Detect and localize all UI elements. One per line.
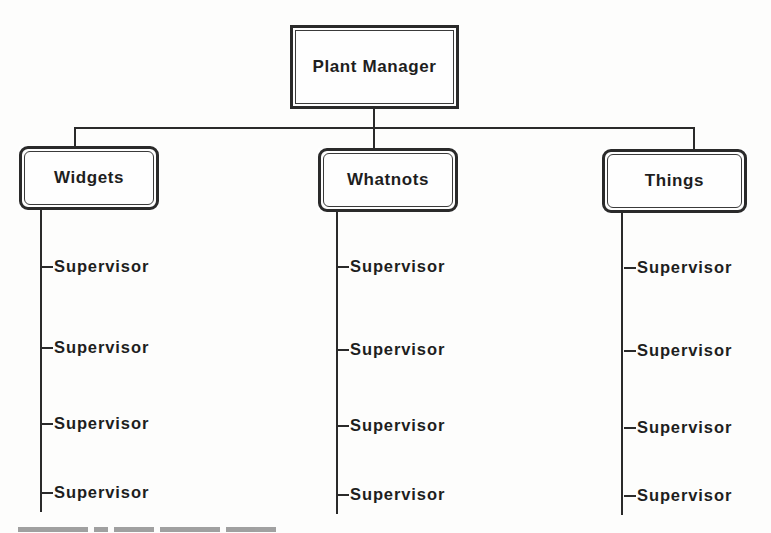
- branch-tick: [624, 495, 636, 497]
- supervisor-item: Supervisor: [337, 416, 445, 434]
- department-box-whatnots: Whatnots: [318, 148, 458, 212]
- branch-tick: [337, 425, 349, 427]
- caption-fragment: [18, 527, 298, 533]
- horizontal-connector: [74, 127, 694, 129]
- supervisor-item: Supervisor: [337, 257, 445, 275]
- plant-manager-box: Plant Manager: [290, 25, 459, 109]
- supervisor-item: Supervisor: [337, 485, 445, 503]
- branch-tick: [624, 427, 636, 429]
- branch-tick: [41, 492, 53, 494]
- widgets-spine: [40, 210, 42, 512]
- branch-tick: [41, 423, 53, 425]
- supervisor-item: Supervisor: [624, 258, 732, 276]
- branch-tick: [337, 266, 349, 268]
- whatnots-drop: [373, 127, 375, 149]
- department-box-things: Things: [602, 149, 747, 213]
- supervisor-item: Supervisor: [624, 418, 732, 436]
- widgets-drop: [74, 127, 76, 147]
- things-spine: [621, 213, 623, 515]
- branch-tick: [624, 267, 636, 269]
- branch-tick: [624, 350, 636, 352]
- branch-tick: [41, 266, 53, 268]
- supervisor-item: Supervisor: [624, 486, 732, 504]
- branch-tick: [337, 494, 349, 496]
- things-drop: [693, 127, 695, 150]
- department-label: Widgets: [54, 168, 124, 188]
- supervisor-item: Supervisor: [41, 414, 149, 432]
- supervisor-item: Supervisor: [624, 341, 732, 359]
- department-label: Whatnots: [347, 170, 429, 190]
- branch-tick: [41, 347, 53, 349]
- department-box-widgets: Widgets: [19, 146, 159, 210]
- branch-tick: [337, 349, 349, 351]
- department-label: Things: [645, 171, 704, 191]
- supervisor-item: Supervisor: [41, 483, 149, 501]
- plant-manager-label: Plant Manager: [313, 57, 437, 77]
- root-connector: [373, 109, 375, 128]
- supervisor-item: Supervisor: [41, 338, 149, 356]
- supervisor-item: Supervisor: [337, 340, 445, 358]
- supervisor-item: Supervisor: [41, 257, 149, 275]
